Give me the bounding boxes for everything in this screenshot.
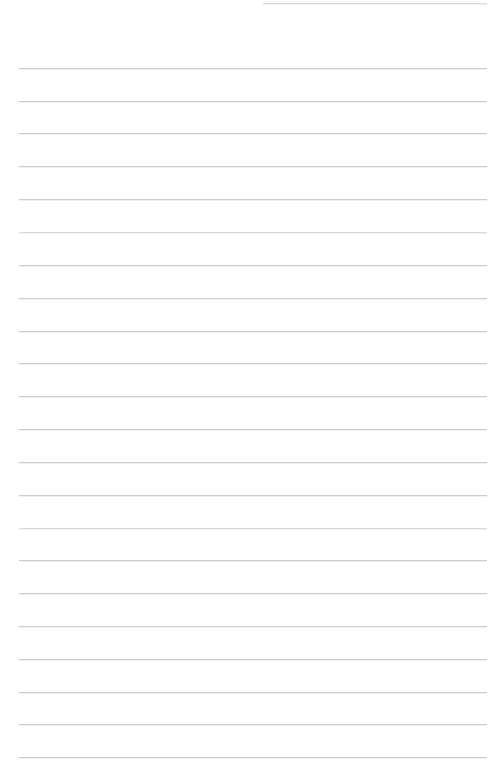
lined-paper-page <box>0 0 500 776</box>
writing-area[interactable] <box>0 0 500 776</box>
